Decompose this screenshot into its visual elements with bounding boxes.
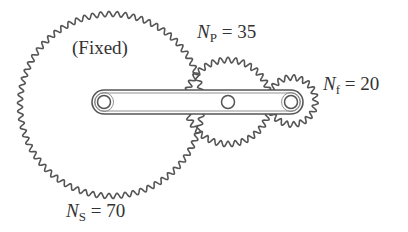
sun-subscript: S: [79, 209, 86, 224]
planet-subscript: P: [210, 30, 217, 45]
follower-teeth-label: Nf = 20: [323, 74, 379, 96]
planet-teeth-label: NP = 35: [197, 22, 256, 44]
fixed-label: (Fixed): [72, 38, 128, 57]
arm-pivot-follower: [285, 96, 298, 109]
sun-value: = 70: [91, 200, 125, 221]
sun-symbol: N: [66, 200, 79, 221]
arm: [92, 90, 303, 114]
arm-pivot-sun: [98, 96, 111, 109]
arm-body: [92, 90, 303, 114]
planet-value: = 35: [222, 21, 256, 42]
arm-pivot-planet: [222, 96, 235, 109]
follower-symbol: N: [323, 73, 336, 94]
follower-value: = 20: [345, 73, 379, 94]
follower-subscript: f: [336, 82, 340, 97]
planet-symbol: N: [197, 21, 210, 42]
sun-teeth-label: NS = 70: [66, 201, 125, 223]
